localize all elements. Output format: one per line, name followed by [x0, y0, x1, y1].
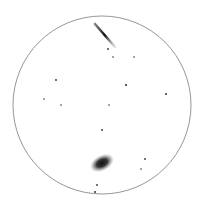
star	[60, 104, 62, 106]
star-field	[43, 48, 167, 193]
star	[108, 104, 110, 106]
star	[144, 158, 146, 160]
star	[133, 56, 135, 58]
star	[94, 191, 96, 193]
star	[96, 184, 98, 186]
star	[140, 168, 142, 170]
star	[107, 48, 109, 50]
star	[43, 98, 45, 100]
star	[125, 84, 127, 86]
star	[55, 79, 57, 81]
edge-on-galaxy	[95, 24, 115, 47]
star	[165, 93, 167, 95]
star	[101, 129, 103, 131]
eyepiece-field	[0, 0, 201, 209]
elliptical-galaxy	[87, 150, 117, 176]
star	[112, 56, 114, 58]
